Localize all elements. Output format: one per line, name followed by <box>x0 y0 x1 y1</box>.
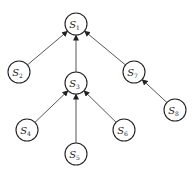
edge-s4-to-s3 <box>35 91 68 122</box>
edges <box>27 31 167 143</box>
node-s8: S8 <box>164 99 186 121</box>
node-s6: S6 <box>113 119 135 141</box>
edge-s8-to-s7 <box>142 80 166 103</box>
edge-s7-to-s1 <box>85 31 126 65</box>
nodes: S1S2S3S7S8S4S6S5 <box>8 13 186 165</box>
node-s1: S1 <box>65 13 87 35</box>
node-s5: S5 <box>65 143 87 165</box>
node-s3: S3 <box>65 72 87 94</box>
edge-s2-to-s1 <box>27 31 67 65</box>
node-s7: S7 <box>123 61 145 83</box>
node-s4: S4 <box>16 119 38 141</box>
tree-diagram: S1S2S3S7S8S4S6S5 <box>0 0 193 173</box>
edge-s6-to-s3 <box>84 91 116 122</box>
node-s2: S2 <box>8 61 30 83</box>
